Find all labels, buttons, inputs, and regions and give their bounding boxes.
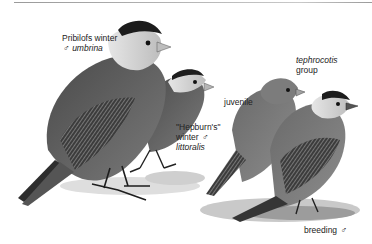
label-tephrocotis-group: tephrocotis group (296, 55, 338, 75)
label-hepburns-line1: "Hepburn's" (176, 122, 221, 132)
male-symbol-icon: ♂ (202, 132, 209, 142)
label-breeding-male: breeding ♂ (304, 225, 347, 235)
label-hepburns-taxon: littoralis (176, 142, 205, 152)
label-juvenile-text: juvenile (224, 97, 253, 107)
label-breeding-text: breeding (304, 225, 337, 235)
label-tephrocotis-line2: group (296, 65, 318, 75)
label-pribilofs-taxon: umbrina (72, 43, 103, 53)
label-hepburns-winter: "Hepburn's" winter ♂ littoralis (176, 122, 221, 152)
male-symbol-icon: ♂ (63, 43, 70, 53)
label-tephrocotis-taxon: tephrocotis (296, 55, 338, 65)
label-pribilofs-winter: Pribilofs winter ♂ umbrina (62, 33, 117, 53)
label-pribilofs-line1: Pribilofs winter (62, 33, 117, 43)
label-juvenile: juvenile (224, 97, 253, 107)
label-hepburns-line2: winter (176, 132, 199, 142)
male-symbol-icon: ♂ (340, 225, 347, 235)
